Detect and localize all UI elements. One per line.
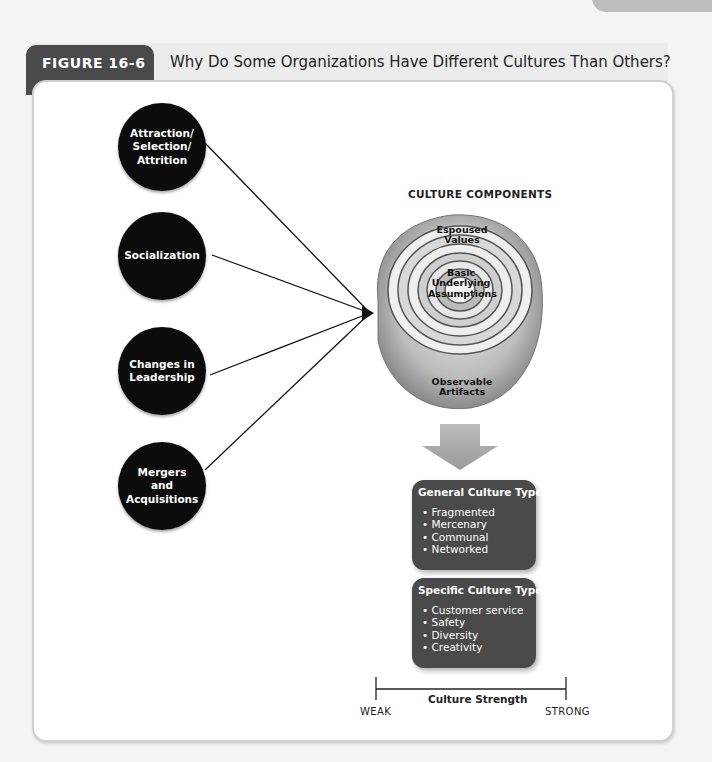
cause-attraction-selection-attrition: Attraction/ Selection/ Attrition: [118, 103, 206, 191]
connector-arrows: [205, 143, 370, 470]
specific-culture-types-box: Specific Culture Types Customer service …: [412, 578, 536, 668]
cause-label: Changes in Leadership: [129, 358, 195, 384]
list-item: Diversity: [422, 629, 530, 641]
list-item: Fragmented: [422, 506, 530, 518]
arrowhead-icon: [362, 306, 374, 321]
list-item: Mercenary: [422, 518, 530, 530]
basic-assumptions-label: Basic Underlying Assumptions: [428, 268, 494, 299]
cause-label: Mergers and Acquisitions: [126, 466, 198, 505]
general-culture-types-list: Fragmented Mercenary Communal Networked: [418, 506, 530, 556]
culture-components-title: CULTURE COMPONENTS: [408, 188, 552, 200]
general-culture-types-title: General Culture Types: [418, 486, 530, 498]
cause-label: Attraction/ Selection/ Attrition: [129, 127, 195, 166]
culture-strength-label: Culture Strength: [428, 693, 528, 705]
observable-artifacts-label: Observable Artifacts: [426, 377, 498, 398]
specific-culture-types-list: Customer service Safety Diversity Creati…: [418, 604, 530, 654]
list-item: Communal: [422, 531, 530, 543]
general-culture-types-box: General Culture Types Fragmented Mercena…: [412, 480, 536, 570]
cause-socialization: Socialization: [118, 212, 206, 300]
scale-weak-label: WEAK: [360, 706, 391, 717]
list-item: Safety: [422, 616, 530, 628]
list-item: Customer service: [422, 604, 530, 616]
espoused-values-label: Espoused Values: [434, 225, 490, 246]
cause-label: Socialization: [124, 249, 199, 262]
down-arrow-icon: [422, 424, 498, 470]
cause-changes-in-leadership: Changes in Leadership: [118, 327, 206, 415]
cause-mergers-and-acquisitions: Mergers and Acquisitions: [118, 442, 206, 530]
specific-culture-types-title: Specific Culture Types: [418, 584, 530, 596]
list-item: Networked: [422, 543, 530, 555]
list-item: Creativity: [422, 641, 530, 653]
scale-strong-label: STRONG: [545, 706, 590, 717]
